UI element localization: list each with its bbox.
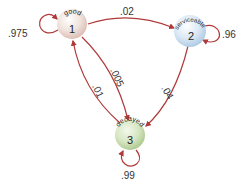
edge-good-to-good <box>40 14 58 33</box>
edge-decayed-to-decayed <box>121 150 139 166</box>
node-decayed-number: 3 <box>127 134 133 146</box>
edge-good-to-serviceable <box>88 18 174 28</box>
node-decayed[interactable]: decayed 3 <box>114 115 146 150</box>
edge-label-serviceable-serviceable: .96 <box>222 29 236 40</box>
node-good[interactable]: good 1 <box>57 7 87 39</box>
edge-label-good-serviceable: .02 <box>120 6 134 17</box>
edge-label-good-good: .975 <box>8 28 28 39</box>
edge-label-decayed-decayed: .99 <box>121 170 135 181</box>
markov-chain-diagram: .975 .02 .96 .04 .005 .01 .99 good 1 ser… <box>0 0 252 186</box>
node-good-number: 1 <box>69 23 75 35</box>
node-serviceable[interactable]: serviceable 2 <box>173 15 207 47</box>
edge-label-serviceable-decayed: .04 <box>159 84 176 102</box>
node-serviceable-number: 2 <box>188 30 194 42</box>
edge-label-decayed-good: .01 <box>90 82 106 100</box>
edge-label-good-decayed: .005 <box>108 66 126 89</box>
